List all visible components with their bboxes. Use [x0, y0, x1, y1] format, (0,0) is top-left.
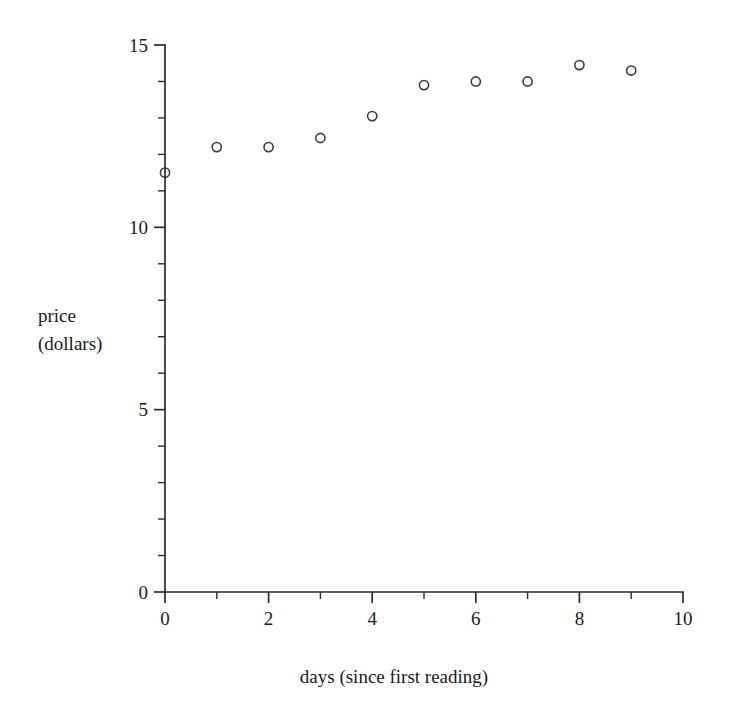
y-tick-label: 0 — [139, 582, 149, 603]
axis-ticks — [154, 45, 683, 603]
data-point — [368, 112, 377, 121]
x-tick-label: 6 — [471, 608, 481, 629]
axis-titles: price(dollars)days (since first reading) — [38, 305, 488, 688]
y-axis-title-line1: price — [38, 305, 76, 326]
data-point — [264, 143, 273, 152]
x-tick-label: 0 — [160, 608, 170, 629]
axis-tick-labels: 0510150246810 — [129, 35, 693, 630]
y-tick-label: 5 — [139, 399, 149, 420]
scatter-chart: 0510150246810 price(dollars)days (since … — [0, 0, 730, 715]
data-point — [316, 133, 325, 142]
chart-canvas: 0510150246810 price(dollars)days (since … — [0, 0, 730, 715]
data-point — [212, 143, 221, 152]
data-point — [471, 77, 480, 86]
x-tick-label: 2 — [264, 608, 274, 629]
x-tick-label: 8 — [575, 608, 585, 629]
x-tick-label: 10 — [674, 608, 693, 629]
data-point — [627, 66, 636, 75]
x-axis-title: days (since first reading) — [300, 666, 488, 688]
y-tick-label: 15 — [129, 35, 148, 56]
data-point — [419, 81, 428, 90]
y-axis-title-line2: (dollars) — [38, 333, 102, 355]
axes — [165, 45, 683, 592]
data-point — [523, 77, 532, 86]
y-tick-label: 10 — [129, 217, 148, 238]
data-point — [575, 60, 584, 69]
data-points — [160, 60, 635, 177]
x-tick-label: 4 — [367, 608, 377, 629]
